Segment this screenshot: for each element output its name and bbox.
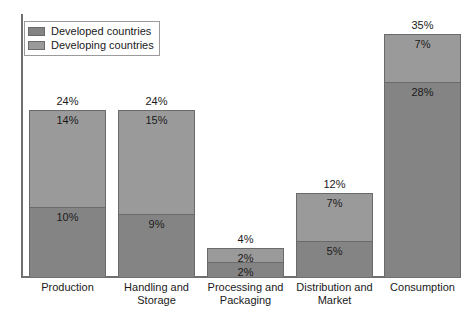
bar-stack[interactable]: 14% 10% <box>29 110 106 276</box>
bar-total-label: 24% <box>29 95 106 107</box>
segment-developed[interactable]: 9% <box>119 215 194 277</box>
segment-value-label: 2% <box>238 263 254 278</box>
legend-swatch-developed-icon <box>28 27 45 36</box>
legend-item-developing[interactable]: Developing countries <box>28 38 154 52</box>
x-axis-label-distribution-and-market: Distribution and Market <box>286 281 383 307</box>
label-line-2: Packaging <box>197 294 294 307</box>
segment-value-label: 10% <box>56 208 78 223</box>
x-axis-category-labels: Production Handling and Storage Processi… <box>29 281 461 315</box>
segment-developing[interactable]: 14% <box>30 111 105 208</box>
bar-total-label: 4% <box>207 233 284 245</box>
segment-value-label: 9% <box>149 215 165 230</box>
legend-label-developed: Developed countries <box>51 26 151 37</box>
label-line-1: Processing and <box>197 281 294 294</box>
bar-stack[interactable]: 7% 28% <box>384 34 461 276</box>
stacked-bar-chart: 24% 14% 10% 24% 15% 9% <box>0 0 471 316</box>
segment-value-label: 15% <box>145 111 167 126</box>
legend-swatch-developing-icon <box>28 41 45 50</box>
chart-legend: Developed countries Developing countries <box>24 21 160 56</box>
segment-developing[interactable]: 7% <box>385 35 460 83</box>
segment-developing[interactable]: 7% <box>297 194 372 242</box>
bar-stack[interactable]: 15% 9% <box>118 110 195 276</box>
bar-total-label: 12% <box>296 178 373 190</box>
segment-developing[interactable]: 15% <box>119 111 194 215</box>
segment-developing[interactable]: 2% <box>208 249 283 263</box>
label-line-2: Storage <box>108 294 205 307</box>
segment-developed[interactable]: 28% <box>385 83 460 277</box>
legend-label-developing: Developing countries <box>51 40 154 51</box>
label-line-1: Consumption <box>374 281 471 294</box>
segment-value-label: 5% <box>327 242 343 257</box>
segment-value-label: 2% <box>238 249 254 264</box>
segment-value-label: 7% <box>327 194 343 209</box>
bar-total-label: 24% <box>118 95 195 107</box>
bar-total-label: 35% <box>384 19 461 31</box>
segment-developed[interactable]: 5% <box>297 242 372 277</box>
y-axis-line <box>21 14 23 276</box>
label-line-2: Market <box>286 294 383 307</box>
segment-value-label: 14% <box>56 111 78 126</box>
x-axis-label-production: Production <box>19 281 116 294</box>
label-line-1: Distribution and <box>286 281 383 294</box>
bar-stack[interactable]: 2% 2% <box>207 248 284 276</box>
legend-item-developed[interactable]: Developed countries <box>28 24 154 38</box>
segment-value-label: 28% <box>411 83 433 98</box>
x-axis-label-processing-and-packaging: Processing and Packaging <box>197 281 294 307</box>
segment-developed[interactable]: 10% <box>30 208 105 277</box>
segment-developed[interactable]: 2% <box>208 263 283 277</box>
label-line-1: Production <box>19 281 116 294</box>
bar-stack[interactable]: 7% 5% <box>296 193 373 276</box>
x-axis-label-consumption: Consumption <box>374 281 471 294</box>
segment-value-label: 7% <box>415 35 431 50</box>
x-axis-label-handling-and-storage: Handling and Storage <box>108 281 205 307</box>
label-line-1: Handling and <box>108 281 205 294</box>
